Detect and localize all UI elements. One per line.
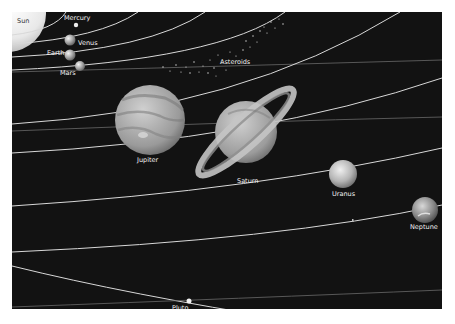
label-pluto: Pluto [172, 304, 188, 312]
pluto [187, 299, 192, 304]
neptune [412, 197, 438, 223]
solar-system-diagram: Sun Mercury Venus Earth Mars Asteroids J… [0, 0, 455, 324]
label-venus: Venus [78, 39, 98, 47]
label-mercury: Mercury [64, 14, 91, 22]
label-uranus: Uranus [332, 190, 356, 198]
label-neptune: Neptune [410, 223, 438, 231]
label-sun: Sun [17, 17, 29, 25]
orbit-marker [352, 219, 354, 222]
jupiter [115, 85, 185, 155]
label-mars: Mars [60, 69, 76, 77]
label-asteroids: Asteroids [220, 58, 251, 66]
label-earth: Earth [47, 49, 64, 57]
venus [65, 35, 76, 46]
mercury [74, 23, 78, 27]
mars [75, 61, 85, 71]
earth [65, 50, 76, 61]
label-saturn: Saturn [237, 177, 258, 185]
uranus [329, 160, 357, 188]
label-jupiter: Jupiter [136, 156, 159, 164]
